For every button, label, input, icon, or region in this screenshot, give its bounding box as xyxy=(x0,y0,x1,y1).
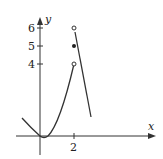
tick-label-y4: 4 xyxy=(28,58,35,71)
function-graph: 6 5 4 2 y x xyxy=(0,0,163,159)
x-axis-arrow-icon xyxy=(148,133,156,139)
parabola-curve xyxy=(22,64,74,138)
x-axis-label: x xyxy=(148,120,155,133)
y-axis-label: y xyxy=(44,13,52,26)
tick-label-y5: 5 xyxy=(28,40,35,53)
open-point-2-6 xyxy=(72,26,76,30)
tick-label-y6: 6 xyxy=(28,22,35,35)
open-point-2-4 xyxy=(72,62,76,66)
line-segment xyxy=(75,32,91,117)
y-axis-arrow-icon xyxy=(37,17,43,25)
tick-label-x2: 2 xyxy=(70,141,77,154)
filled-point-2-5 xyxy=(72,44,76,48)
